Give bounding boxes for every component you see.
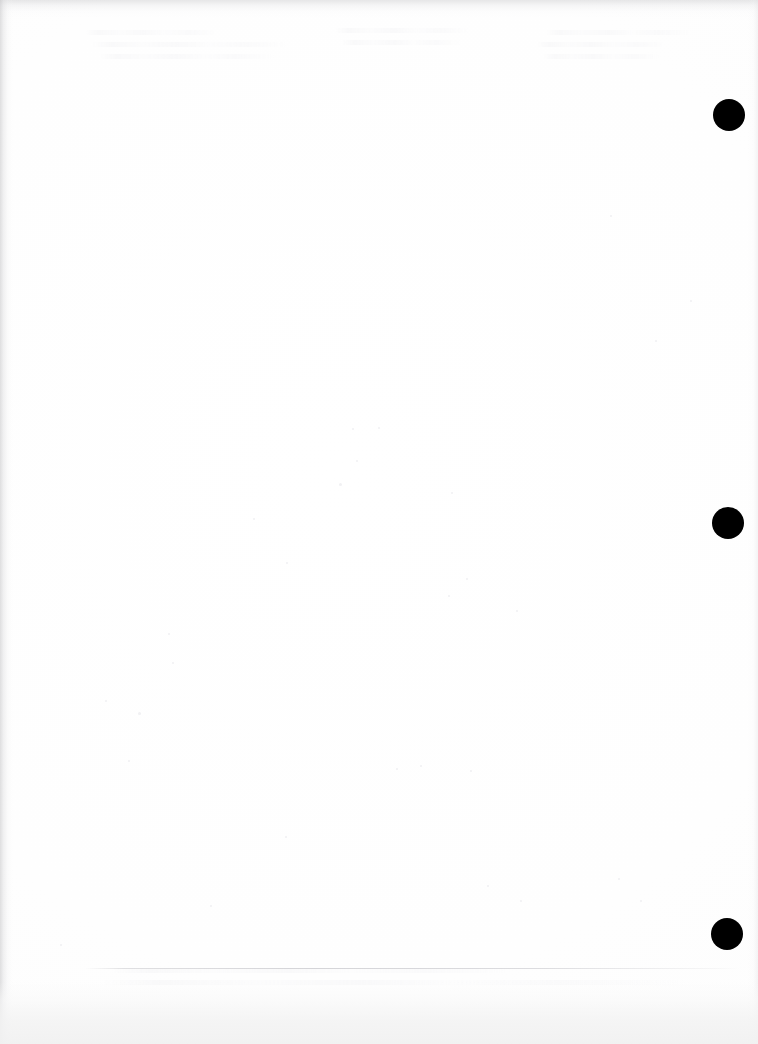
paper-background bbox=[0, 0, 758, 1044]
footer-hairline bbox=[85, 968, 740, 969]
registration-dot-middle bbox=[712, 507, 744, 539]
scanned-page bbox=[0, 0, 758, 1044]
bottom-light-wash bbox=[0, 982, 758, 1044]
registration-dot-top bbox=[713, 99, 745, 131]
right-edge-shadow bbox=[748, 0, 758, 1044]
left-edge-shadow bbox=[0, 0, 14, 1044]
registration-dot-bottom bbox=[711, 918, 743, 950]
top-edge-shadow bbox=[0, 0, 758, 18]
